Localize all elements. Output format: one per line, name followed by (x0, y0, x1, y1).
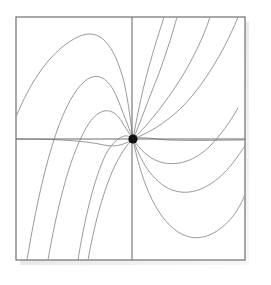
singular-point-marker (128, 134, 137, 143)
phase-portrait-figure (0, 0, 271, 285)
phase-portrait-canvas (0, 0, 271, 285)
